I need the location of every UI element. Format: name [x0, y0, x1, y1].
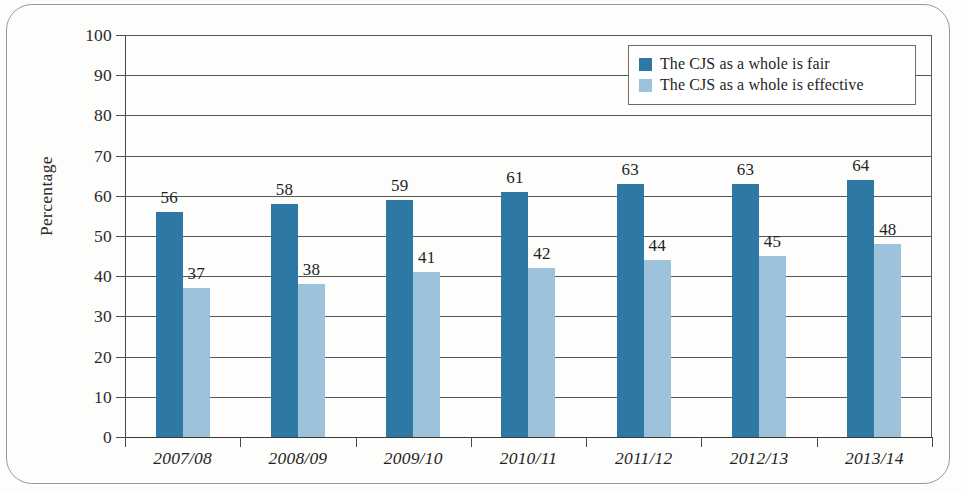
- legend-swatch-icon: [639, 79, 652, 92]
- bar-value-label: 59: [391, 176, 408, 196]
- legend-item[interactable]: The CJS as a whole is fair: [639, 55, 905, 73]
- bar-fill: [759, 256, 786, 437]
- y-axis-tick-label: 90: [94, 65, 112, 86]
- y-axis-tick-label: 70: [94, 145, 112, 166]
- x-axis-tick: [356, 437, 357, 447]
- category-group: 6142: [471, 35, 586, 437]
- y-axis-tick: [116, 156, 125, 157]
- bar-fill: [847, 180, 874, 437]
- bar-value-label: 44: [649, 236, 666, 256]
- bar-pair: 6142: [501, 35, 555, 437]
- legend-item-label: The CJS as a whole is effective: [660, 76, 864, 94]
- x-axis-tick: [932, 437, 933, 447]
- y-axis-tick-label: 30: [94, 306, 112, 327]
- x-axis-tick-label: 2007/08: [153, 448, 212, 469]
- bar-pair: 5637: [156, 35, 210, 437]
- y-axis-tick-label: 60: [94, 185, 112, 206]
- bar-value-label: 38: [303, 260, 320, 280]
- bar-value-label: 64: [852, 156, 869, 176]
- bar-fill: [644, 260, 671, 437]
- y-axis-tick-label: 0: [103, 427, 112, 448]
- y-axis-tick: [116, 397, 125, 398]
- bar-value-label: 42: [533, 244, 550, 264]
- bar-fill: [386, 200, 413, 437]
- y-axis-tick-label: 50: [94, 226, 112, 247]
- y-axis-tick: [116, 236, 125, 237]
- bar-value-label: 63: [622, 160, 639, 180]
- bar-fill: [156, 212, 183, 437]
- bar-fill: [501, 192, 528, 437]
- x-axis-tick: [817, 437, 818, 447]
- bar-pair: 5838: [271, 35, 325, 437]
- bar-value-label: 48: [879, 220, 896, 240]
- bar-fill: [732, 184, 759, 437]
- bar-pair: 5941: [386, 35, 440, 437]
- bar-value-label: 61: [506, 168, 523, 188]
- x-axis-tick-label: 2013/14: [845, 448, 904, 469]
- y-axis-tick: [116, 437, 125, 438]
- legend-item[interactable]: The CJS as a whole is effective: [639, 76, 905, 94]
- y-axis-tick: [116, 276, 125, 277]
- x-axis-tick-label: 2012/13: [730, 448, 789, 469]
- x-axis-tick-label: 2009/10: [384, 448, 443, 469]
- bar-fill: [874, 244, 901, 437]
- y-axis-tick-label: 100: [85, 25, 112, 46]
- bar-fill: [183, 288, 210, 437]
- x-axis-tick-label: 2010/11: [500, 448, 557, 469]
- x-axis-tick: [471, 437, 472, 447]
- bar-value-label: 45: [764, 232, 781, 252]
- x-axis-baseline: [125, 437, 932, 438]
- x-axis-tick-label: 2008/09: [269, 448, 328, 469]
- y-axis-tick-label: 20: [94, 346, 112, 367]
- x-axis-tick-label: 2011/12: [615, 448, 672, 469]
- bar-fill: [528, 268, 555, 437]
- category-group: 5941: [356, 35, 471, 437]
- bar-value-label: 58: [276, 180, 293, 200]
- y-axis-tick: [116, 316, 125, 317]
- chart-figure: Percentage 1009080706050403020100 563758…: [0, 0, 962, 492]
- bar-fill: [617, 184, 644, 437]
- bar-fill: [413, 272, 440, 437]
- bar-fill: [298, 284, 325, 437]
- category-group: 5838: [240, 35, 355, 437]
- chart-legend: The CJS as a whole is fairThe CJS as a w…: [628, 45, 916, 105]
- legend-swatch-icon: [639, 58, 652, 71]
- y-axis-tick-label: 40: [94, 266, 112, 287]
- legend-item-label: The CJS as a whole is fair: [660, 55, 830, 73]
- y-axis-title: Percentage: [36, 156, 57, 236]
- category-group: 5637: [125, 35, 240, 437]
- bar-value-label: 63: [737, 160, 754, 180]
- bar-fill: [271, 204, 298, 437]
- x-axis-tick: [125, 437, 126, 447]
- x-axis-tick: [240, 437, 241, 447]
- y-axis-tick-label: 10: [94, 386, 112, 407]
- y-axis-tick: [116, 75, 125, 76]
- y-axis-tick: [116, 115, 125, 116]
- bar-value-label: 56: [160, 188, 177, 208]
- x-axis-tick: [586, 437, 587, 447]
- y-axis-tick-label: 80: [94, 105, 112, 126]
- bar-value-label: 37: [187, 264, 204, 284]
- y-axis-tick: [116, 357, 125, 358]
- y-axis-tick: [116, 196, 125, 197]
- bar-value-label: 41: [418, 248, 435, 268]
- x-axis-tick: [701, 437, 702, 447]
- y-axis-tick: [116, 35, 125, 36]
